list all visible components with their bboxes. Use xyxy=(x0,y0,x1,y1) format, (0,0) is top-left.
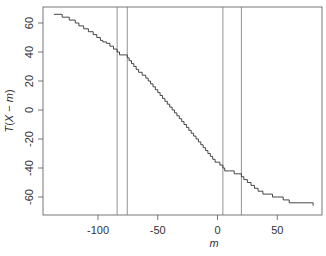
x-tick-label: -50 xyxy=(150,224,166,236)
x-tick-label: 0 xyxy=(214,224,220,236)
y-tick-label: 0 xyxy=(23,107,35,113)
y-axis: -60-40-200204060 xyxy=(23,17,43,205)
vertical-reference-lines xyxy=(117,7,241,215)
y-tick-label: -40 xyxy=(23,160,35,176)
x-tick-label: -100 xyxy=(87,224,109,236)
x-tick-label: 50 xyxy=(271,224,283,236)
y-axis-label: T(X − m) xyxy=(3,89,15,132)
y-tick-label: 40 xyxy=(23,46,35,58)
step-series-line xyxy=(54,14,313,205)
x-axis-label: m xyxy=(209,237,218,249)
step-chart: -100-50050 -60-40-200204060 m T(X − m) xyxy=(0,0,326,256)
y-tick-label: -60 xyxy=(23,189,35,205)
plot-frame xyxy=(43,7,322,215)
x-axis: -100-50050 xyxy=(87,215,283,236)
y-tick-label: 60 xyxy=(23,17,35,29)
y-tick-label: 20 xyxy=(23,75,35,87)
y-tick-label: -20 xyxy=(23,131,35,147)
